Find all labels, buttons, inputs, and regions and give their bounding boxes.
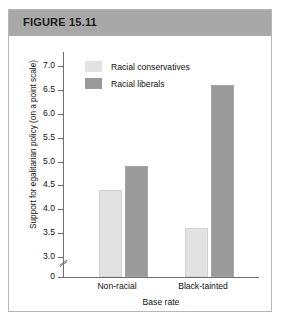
y-axis-tick: 5.0 xyxy=(58,162,63,163)
bar xyxy=(99,190,122,277)
figure-panel: FIGURE 15.11 Support for egalitarian pol… xyxy=(8,9,272,312)
bar xyxy=(211,85,234,277)
y-axis-tick: 5.5 xyxy=(58,138,63,139)
chart-legend: Racial conservatives Racial liberals xyxy=(85,58,190,92)
y-axis-tick-label: 4.0 xyxy=(43,203,55,213)
y-axis-tick-label: 5.0 xyxy=(43,156,55,166)
y-axis-title: Support for egalitarian policy (on a poi… xyxy=(29,45,38,245)
y-axis-tick-label: 4.5 xyxy=(43,179,55,189)
legend-swatch-racial-liberals xyxy=(85,78,102,89)
y-axis-tick: 4.0 xyxy=(58,209,63,210)
axis-break-icon xyxy=(59,256,68,269)
y-axis-zero-tick: 0 xyxy=(58,277,63,278)
y-axis-tick-label: 6.0 xyxy=(43,108,55,118)
x-axis-category-label: Black-tainted xyxy=(178,281,228,291)
bar xyxy=(185,228,208,277)
y-axis-tick: 4.5 xyxy=(58,185,63,186)
legend-label-racial-conservatives: Racial conservatives xyxy=(111,62,190,72)
legend-swatch-racial-conservatives xyxy=(85,61,102,72)
legend-item: Racial liberals xyxy=(85,75,190,92)
y-axis-tick-label: 5.5 xyxy=(43,132,55,142)
bar-chart: Support for egalitarian policy (on a poi… xyxy=(9,36,271,312)
y-axis-tick-label: 3.0 xyxy=(43,251,55,261)
x-axis-category-label: Non-racial xyxy=(97,281,136,291)
y-axis-tick-label: 7.0 xyxy=(43,60,55,70)
bar xyxy=(125,166,148,277)
y-axis-tick-label: 6.5 xyxy=(43,84,55,94)
y-axis-zero-label: 0 xyxy=(50,271,55,281)
plot-area: 7.06.56.05.55.04.54.03.53.00 Racial cons… xyxy=(63,52,259,278)
y-axis-tick-label: 3.5 xyxy=(43,227,55,237)
y-axis-tick: 6.5 xyxy=(58,90,63,91)
y-axis-tick: 3.5 xyxy=(58,233,63,234)
y-axis-tick: 7.0 xyxy=(58,66,63,67)
legend-item: Racial conservatives xyxy=(85,58,190,75)
x-axis-line xyxy=(63,277,259,278)
figure-header-band: FIGURE 15.11 xyxy=(9,10,271,36)
y-axis-tick: 6.0 xyxy=(58,114,63,115)
figure-number-label: FIGURE 15.11 xyxy=(23,16,97,28)
y-axis-line xyxy=(63,52,64,278)
legend-label-racial-liberals: Racial liberals xyxy=(111,79,165,89)
x-axis-title: Base rate xyxy=(143,297,180,307)
